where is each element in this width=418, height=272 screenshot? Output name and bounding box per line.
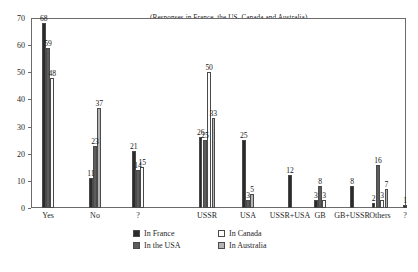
bar <box>372 203 376 208</box>
bar-value-label: 12 <box>286 166 293 175</box>
bar <box>288 175 292 208</box>
bar <box>376 165 380 208</box>
bar-value-label: 25 <box>201 131 208 140</box>
bar-value-label: 8 <box>318 177 322 186</box>
bar-value-label: 3 <box>246 191 250 200</box>
bar <box>136 170 140 208</box>
legend-swatch-icon <box>133 242 140 249</box>
bar-value-label: 33 <box>210 109 217 118</box>
legend-swatch-icon <box>218 230 225 237</box>
x-tick-label: ? <box>403 211 407 220</box>
x-tick-label: Others <box>369 211 390 220</box>
bar-value-label: 8 <box>350 177 354 186</box>
x-tick-label: GB+USSR <box>334 211 370 220</box>
x-tick-label: GB <box>314 211 325 220</box>
y-tick-label: 40 <box>17 95 25 104</box>
bar <box>242 140 246 208</box>
bar <box>322 200 326 208</box>
bar-value-label: 7 <box>384 180 388 189</box>
chart-legend: In FranceIn the USAIn CanadaIn Australia <box>133 229 363 259</box>
bar-value-label: 25 <box>240 131 247 140</box>
y-tick-label: 20 <box>17 149 25 158</box>
legend-item: In the USA <box>133 241 180 250</box>
bar <box>380 200 384 208</box>
bar-value-label: 3 <box>322 191 326 200</box>
bar <box>385 189 389 208</box>
bar-value-label: 23 <box>91 137 98 146</box>
legend-item: In Canada <box>218 229 262 238</box>
bar <box>246 200 250 208</box>
legend-item: In Australia <box>218 241 267 250</box>
bar <box>203 140 207 208</box>
bar-chart: (Responses in France, the US, Canada and… <box>0 0 418 272</box>
legend-label: In Australia <box>229 241 267 250</box>
y-tick-label: 10 <box>17 176 25 185</box>
bar-value-label: 16 <box>374 156 381 165</box>
bar <box>132 151 136 208</box>
bar-value-label: 48 <box>48 69 55 78</box>
x-tick-label: USSR+USA <box>270 211 311 220</box>
bar <box>212 118 216 208</box>
x-tick-label: USA <box>240 211 256 220</box>
bar-value-label: 37 <box>95 99 102 108</box>
bar-value-label: 3 <box>314 191 318 200</box>
legend-label: In the USA <box>144 241 180 250</box>
bar-value-label: 3 <box>380 191 384 200</box>
bar <box>207 72 211 208</box>
bar-value-label: 59 <box>44 39 51 48</box>
x-tick-label: Yes <box>42 211 54 220</box>
bar <box>140 167 144 208</box>
x-tick-label: No <box>90 211 100 220</box>
y-tick-label: 50 <box>17 68 25 77</box>
bar-value-label: 50 <box>205 63 212 72</box>
y-axis: 010203040506070 <box>0 0 31 272</box>
y-tick-label: 70 <box>17 14 25 23</box>
bar <box>350 186 354 208</box>
bar <box>403 205 407 208</box>
legend-swatch-icon <box>133 230 140 237</box>
bar <box>42 23 46 208</box>
bar-value-label: 1 <box>403 196 407 205</box>
bar <box>199 137 203 208</box>
bar-value-label: 15 <box>138 158 145 167</box>
y-tick-label: 60 <box>17 41 25 50</box>
bar <box>250 194 254 208</box>
y-tick-label: 0 <box>21 204 25 213</box>
bar-value-label: 11 <box>87 169 94 178</box>
bar-value-label: 68 <box>40 14 47 23</box>
bar <box>314 200 318 208</box>
bar-value-label: 21 <box>130 142 137 151</box>
bar <box>97 108 101 208</box>
y-tick-label: 30 <box>17 122 25 131</box>
legend-label: In France <box>144 229 174 238</box>
bar-value-label: 5 <box>250 185 254 194</box>
legend-label: In Canada <box>229 229 262 238</box>
x-tick-label: USSR <box>197 211 217 220</box>
legend-swatch-icon <box>218 242 225 249</box>
bar <box>318 186 322 208</box>
bar <box>50 78 54 208</box>
x-tick-label: ? <box>136 211 140 220</box>
bar <box>89 178 93 208</box>
bar-value-label: 2 <box>372 194 376 203</box>
legend-item: In France <box>133 229 174 238</box>
y-tick-mark <box>28 208 31 209</box>
